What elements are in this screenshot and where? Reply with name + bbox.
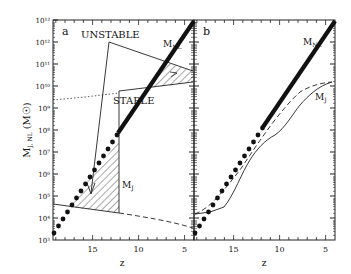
ytick-label: 10⁶: [38, 171, 50, 179]
xtick-label: 5: [182, 245, 187, 254]
mnl-label-b: MNL: [303, 37, 321, 48]
mj-solid-line-b: [195, 82, 332, 214]
mj-label-b: MJ: [315, 92, 327, 104]
mj-label-a: MJ: [122, 180, 134, 192]
panel-a-label: a: [62, 25, 69, 38]
xtick-label: 5: [323, 245, 328, 254]
x-axis-label-b: z: [262, 258, 267, 268]
unstable-label: UNSTABLE: [81, 29, 140, 40]
ytick-label: 10¹³: [35, 17, 50, 25]
ytick-label: 10¹¹: [35, 61, 50, 69]
mj-dashed-line: [119, 213, 193, 228]
ytick-label: 10⁵: [38, 193, 50, 201]
mnl-dots-b: [193, 126, 265, 236]
ytick-label: 10³: [38, 237, 50, 245]
panel-b-label: b: [203, 25, 210, 38]
xtick-label: 10: [134, 245, 144, 254]
y-axis-label: MJ, NL(M☉): [21, 102, 34, 158]
dotted-line: [53, 93, 119, 100]
y-tick-labels: 10³ 10⁴ 10⁵ 10⁶ 10⁷ 10⁸ 10⁹ 10¹⁰ 10¹¹ 10…: [35, 17, 50, 245]
ytick-label: 10⁹: [38, 105, 50, 113]
ytick-label: 10¹²: [35, 39, 50, 47]
hatch-region-lower: [68, 140, 119, 213]
xtick-label: 15: [229, 245, 239, 254]
xtick-label: 15: [88, 245, 98, 254]
x-axis-label-a: z: [120, 258, 125, 268]
ytick-label: 10⁴: [38, 215, 50, 223]
panel-b: b MNL MJ: [193, 21, 335, 235]
xtick-label: 10: [275, 245, 285, 254]
svg-text:MJ, NL(M☉): MJ, NL(M☉): [21, 102, 34, 158]
ytick-label: 10¹⁰: [35, 83, 50, 91]
ytick-label: 10⁸: [38, 127, 50, 135]
ytick-label: 10⁷: [38, 149, 50, 157]
mj-dashed-line-b: [195, 82, 332, 214]
figure: 10³ 10⁴ 10⁵ 10⁶ 10⁷ 10⁸ 10⁹ 10¹⁰ 10¹¹ 10…: [0, 0, 351, 274]
mnl-thick-line-b: [263, 21, 335, 127]
x-tick-labels: 15 10 5 15 10 5: [88, 245, 329, 254]
panel-a: a UNSTABLE STABLE MNL MJ: [52, 21, 194, 235]
stable-label: STABLE: [113, 95, 154, 106]
